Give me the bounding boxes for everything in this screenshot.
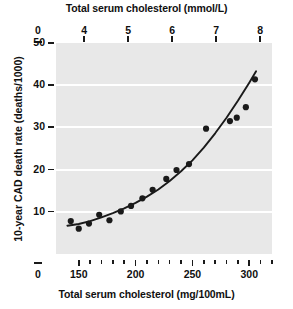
y-tick-mark <box>48 211 54 213</box>
x-tick-mark <box>89 260 91 264</box>
x-tick-mark <box>248 260 250 266</box>
data-point <box>76 226 82 232</box>
bottom-axis-title: Total serum cholesterol (mg/100mL) <box>0 288 293 300</box>
x-tick-mark <box>123 260 125 264</box>
x-top-tick-label: 0 <box>23 24 53 36</box>
data-point <box>234 115 240 121</box>
data-point <box>150 187 156 193</box>
x-tick-mark <box>214 260 216 264</box>
data-point <box>106 217 112 223</box>
x-top-tick-label: 7 <box>201 24 231 36</box>
x-tick-mark <box>260 260 262 264</box>
x-tick-mark <box>169 260 171 264</box>
x-tick-mark <box>101 260 103 264</box>
data-point <box>163 176 169 182</box>
x-top-tick-mark <box>127 36 129 42</box>
x-top-tick-label: 6 <box>157 24 187 36</box>
y-tick-mark <box>48 169 54 171</box>
x-tick-label: 200 <box>121 268 151 280</box>
x-tick-mark <box>271 260 273 264</box>
plot-area <box>56 43 272 254</box>
x-axis-break-mark <box>34 262 42 264</box>
data-point <box>173 167 179 173</box>
x-tick-mark <box>203 260 205 264</box>
data-point <box>186 161 192 167</box>
y-tick-mark <box>48 126 54 128</box>
x-top-tick-mark <box>215 36 217 42</box>
y-tick-mark <box>48 84 54 86</box>
data-overlay <box>56 43 272 254</box>
x-tick-label: 250 <box>177 268 207 280</box>
data-point <box>252 76 258 82</box>
x-top-tick-mark <box>171 36 173 42</box>
x-tick-label: 300 <box>234 268 264 280</box>
x-tick-label: 150 <box>64 268 94 280</box>
x-tick-label: 0 <box>23 268 53 280</box>
y-tick-mark <box>48 42 54 44</box>
x-top-tick-label: 4 <box>69 24 99 36</box>
data-point <box>139 195 145 201</box>
x-top-tick-label: 8 <box>245 24 275 36</box>
x-top-tick-mark <box>259 36 261 42</box>
data-point <box>96 212 102 218</box>
x-top-tick-label: 5 <box>113 24 143 36</box>
x-tick-mark <box>146 260 148 264</box>
y-axis-title-container: 10-year CAD death rate (deaths/1000) <box>12 34 26 264</box>
x-tick-mark <box>135 260 137 266</box>
data-point <box>203 126 209 132</box>
x-top-tick-mark <box>83 36 85 42</box>
y-axis-title: 10-year CAD death rate (deaths/1000) <box>12 34 24 264</box>
data-point <box>227 118 233 124</box>
data-point <box>68 218 74 224</box>
x-tick-mark <box>192 260 194 266</box>
x-tick-mark <box>112 260 114 264</box>
top-axis-title: Total serum cholesterol (mmol/L) <box>0 2 293 14</box>
data-point <box>128 203 134 209</box>
x-tick-mark <box>180 260 182 264</box>
fit-curve <box>67 71 256 225</box>
x-tick-mark <box>78 260 80 266</box>
x-tick-mark <box>158 260 160 264</box>
data-point <box>118 208 124 214</box>
x-tick-mark <box>237 260 239 264</box>
x-tick-mark <box>226 260 228 264</box>
chart-figure: Total serum cholesterol (mmol/L) 045678 … <box>0 0 293 309</box>
data-point <box>86 221 92 227</box>
data-point <box>243 104 249 110</box>
